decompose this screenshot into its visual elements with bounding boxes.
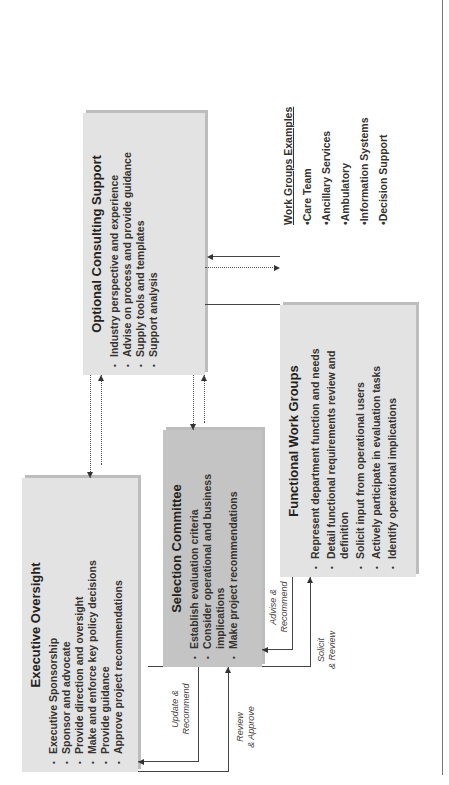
example-item: •Care Team xyxy=(301,75,313,225)
update-recommend-label: Update & Recommend xyxy=(170,669,192,749)
advise-recommend-horizontal xyxy=(292,577,293,650)
work-groups-examples: Work Groups Examples •Care Team •Ancilla… xyxy=(282,75,396,225)
executive-item: Make and enforce key policy decisions xyxy=(86,486,99,764)
arrow-left-icon xyxy=(87,472,93,478)
arrow-right-icon xyxy=(307,577,313,583)
update-recommend-horizontal xyxy=(198,667,199,762)
selection-item: Consider operational and business implic… xyxy=(201,438,227,659)
functional-item: Actively participate in evaluation tasks xyxy=(370,313,383,569)
selection-item: Establish evaluation criteria xyxy=(188,438,201,659)
functional-work-groups-box: Functional Work Groups Represent departm… xyxy=(280,305,416,577)
review-approve-label: Review & Approve xyxy=(235,687,257,767)
page-border-line xyxy=(442,0,443,775)
examples-title: Work Groups Examples xyxy=(282,75,294,225)
functional-item: Detail functional requirements review an… xyxy=(325,313,351,569)
example-item: •Decision Support xyxy=(377,75,389,225)
connector-consulting-to-functional xyxy=(205,267,275,268)
executive-item: Approve project recommendations xyxy=(112,486,125,764)
consulting-support-box: Optional Consulting Support Industry per… xyxy=(83,113,205,375)
solicit-review-vertical xyxy=(262,666,310,667)
update-recommend-line-v xyxy=(148,666,163,667)
governance-diagram: Optional Consulting Support Industry per… xyxy=(0,0,449,785)
connector-consulting-functional xyxy=(205,304,280,305)
connector-functional-to-consulting xyxy=(210,256,280,257)
arrow-right-icon xyxy=(201,375,207,381)
connector-consulting-to-exec xyxy=(101,375,102,465)
arrow-left-icon xyxy=(190,424,196,430)
arrow-down-icon xyxy=(274,265,280,271)
connector-selection-to-consulting xyxy=(204,375,205,423)
review-approve-vertical xyxy=(138,771,228,772)
arrow-right-icon xyxy=(98,375,104,381)
arrow-up-icon xyxy=(207,254,213,260)
selection-title: Selection Committee xyxy=(169,438,184,659)
arrow-up-icon xyxy=(138,759,144,765)
selection-item: Make project recommendations xyxy=(227,438,240,659)
consulting-item: Supply tools and templates xyxy=(134,121,147,367)
arrow-up-icon xyxy=(262,647,268,653)
review-approve-horizontal xyxy=(228,667,229,772)
executive-item: Provide direction and oversight xyxy=(73,486,86,764)
connector-consulting-to-selection xyxy=(193,375,194,430)
executive-item: Executive Sponsorship xyxy=(47,486,60,764)
executive-item: Sponsor and advocate xyxy=(60,486,73,764)
functional-item: Identify operational implications xyxy=(386,313,399,569)
consulting-title: Optional Consulting Support xyxy=(89,121,104,367)
consulting-item: Support analysis xyxy=(147,121,160,367)
functional-item: Solicit input from operational users xyxy=(354,313,367,569)
update-recommend-vertical xyxy=(138,761,198,762)
executive-title: Executive Oversight xyxy=(28,486,43,764)
example-item: •Ambulatory xyxy=(339,75,351,225)
example-item: •Ancillary Services xyxy=(320,75,332,225)
advise-recommend-label: Advise & Recommend xyxy=(268,577,290,637)
executive-oversight-box: Executive Oversight Executive Sponsorshi… xyxy=(22,478,138,772)
functional-item: Represent department function and needs xyxy=(309,313,322,569)
solicit-review-horizontal xyxy=(310,577,311,667)
functional-title: Functional Work Groups xyxy=(286,313,301,569)
arrow-left-icon xyxy=(225,667,231,673)
consulting-item: Industry perspective and experience xyxy=(108,121,121,367)
example-item: •Information Systems xyxy=(358,75,370,225)
connector-exec-to-consulting xyxy=(90,375,91,478)
selection-committee-box: Selection Committee Establish evaluation… xyxy=(163,430,262,667)
consulting-item: Advise on process and provide guidance xyxy=(121,121,134,367)
solicit-review-label: Solicit & Review xyxy=(316,615,338,685)
executive-item: Provide guidance xyxy=(99,486,112,764)
